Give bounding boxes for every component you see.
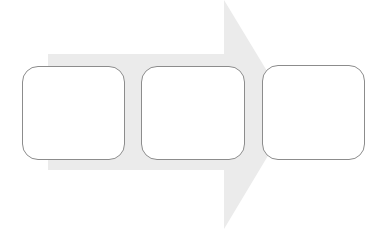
step-box-1[interactable]: [22, 66, 125, 160]
step-box-3[interactable]: [262, 65, 365, 160]
step-box-2[interactable]: [141, 66, 245, 160]
